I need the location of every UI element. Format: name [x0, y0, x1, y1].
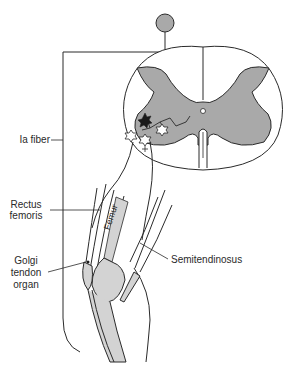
reflex-diagram: [0, 0, 292, 366]
label-golgi-3: organ: [2, 279, 50, 290]
label-rectus-femoris-1: Rectus: [2, 199, 50, 210]
label-ia-fiber: Ia fiber: [4, 134, 50, 145]
dorsal-root-ganglion: [156, 14, 174, 52]
label-golgi-1: Golgi: [2, 255, 50, 266]
spinal-cord: [124, 46, 283, 170]
label-golgi-2: tendon: [2, 267, 50, 278]
golgi-tendon-organ: [83, 262, 93, 290]
label-rectus-femoris-2: femoris: [2, 210, 50, 221]
label-semitendinosus: Semitendinosus: [171, 254, 242, 265]
